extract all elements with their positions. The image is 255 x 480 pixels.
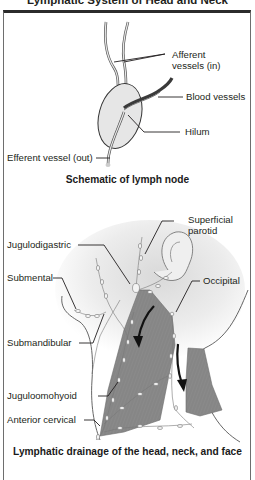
- neck-drainage-illustration: [53, 220, 248, 442]
- label-occipital: Occipital: [203, 275, 240, 286]
- label-jugulodigastric: Jugulodigastric: [7, 239, 71, 250]
- label-superficial-parotid-line2: parotid: [188, 225, 233, 236]
- label-submental: Submental: [7, 272, 53, 283]
- label-superficial-parotid-line1: Superficial: [188, 214, 233, 225]
- label-afferent-vessels: Afferent vessels (in): [172, 49, 221, 71]
- label-blood-vessels: Blood vessels: [186, 91, 245, 102]
- label-efferent-vessel: Efferent vessel (out): [7, 152, 93, 163]
- label-anterior-cervical: Anterior cervical: [7, 414, 76, 425]
- label-afferent-line2: vessels (in): [172, 60, 221, 71]
- lymph-node-schematic: [91, 22, 183, 167]
- label-submandibular: Submandibular: [7, 337, 72, 348]
- label-superficial-parotid: Superficial parotid: [188, 214, 233, 236]
- label-afferent-line1: Afferent: [172, 49, 221, 60]
- label-juguloomohyoid: Juguloomohyoid: [7, 390, 77, 401]
- caption-lymph-node: Schematic of lymph node: [0, 174, 255, 185]
- caption-neck-drainage: Lymphatic drainage of the head, neck, an…: [0, 446, 255, 457]
- label-hilum: Hilum: [185, 126, 210, 137]
